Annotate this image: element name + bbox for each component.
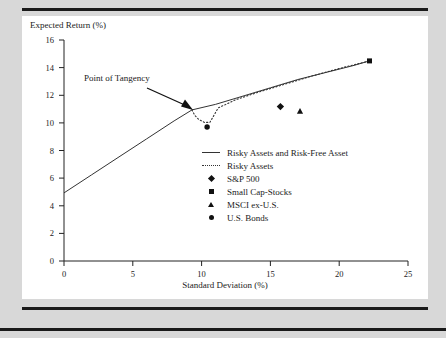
- legend-item-label: Risky Assets and Risk-Free Asset: [224, 148, 348, 158]
- marker-small-cap-stocks: [367, 58, 372, 63]
- legend-item-label: Small Cap-Stocks: [224, 187, 292, 197]
- x-tick-label: 10: [192, 269, 212, 279]
- legend-item-sp500: S&P 500: [198, 172, 348, 185]
- legend-item-risky-and-riskfree: Risky Assets and Risk-Free Asset: [198, 146, 348, 159]
- x-tick-label: 15: [260, 269, 280, 279]
- legend-item-msci-ex-us: MSCI ex-U.S.: [198, 198, 348, 211]
- triangle-marker-key-icon: [198, 202, 224, 207]
- solid-line-key-icon: [198, 152, 224, 153]
- square-marker-key-icon: [198, 189, 224, 194]
- y-axis-ticks: [59, 40, 64, 261]
- legend-item-small-cap-stocks: Small Cap-Stocks: [198, 185, 348, 198]
- series-line-risky-assets: [192, 61, 370, 123]
- x-axis-label: Standard Deviation (%): [22, 280, 428, 290]
- tangency-annotation-label: Point of Tangency: [84, 73, 150, 83]
- tangency-arrow-icon: [147, 88, 193, 110]
- x-axis-ticks: [64, 261, 408, 266]
- y-tick-label: 2: [36, 228, 54, 238]
- y-tick-label: 14: [36, 63, 54, 73]
- dotted-line-key-icon: [198, 165, 224, 166]
- x-tick-label: 5: [123, 269, 143, 279]
- y-tick-label: 10: [36, 118, 54, 128]
- chart-panel: Expected Return (%): [22, 16, 428, 299]
- x-tick-label: 20: [329, 269, 349, 279]
- y-tick-label: 6: [36, 173, 54, 183]
- legend-item-label: U.S. Bonds: [224, 213, 268, 223]
- y-tick-label: 4: [36, 201, 54, 211]
- marker-msci-ex-us: [297, 108, 303, 114]
- legend-item-risky-assets: Risky Assets: [198, 159, 348, 172]
- diamond-marker-key-icon: [198, 176, 224, 181]
- outer-bottom-rule: [0, 328, 446, 331]
- legend-item-label: MSCI ex-U.S.: [224, 200, 279, 210]
- x-tick-label: 0: [54, 269, 74, 279]
- legend-item-label: S&P 500: [224, 174, 259, 184]
- figure-frame: Expected Return (%): [0, 0, 446, 338]
- legend-item-us-bonds: U.S. Bonds: [198, 211, 348, 224]
- y-tick-label: 8: [36, 146, 54, 156]
- y-tick-label: 16: [36, 35, 54, 45]
- top-rule: [22, 8, 428, 11]
- inner-bottom-rule: [22, 307, 428, 310]
- marker-us-bonds: [204, 124, 209, 129]
- circle-marker-key-icon: [198, 215, 224, 220]
- chart-legend: Risky Assets and Risk-Free Asset Risky A…: [198, 146, 348, 224]
- marker-sp500: [277, 103, 284, 110]
- x-tick-label: 25: [398, 269, 418, 279]
- y-tick-label: 12: [36, 90, 54, 100]
- y-tick-label: 0: [36, 256, 54, 266]
- legend-item-label: Risky Assets: [224, 161, 273, 171]
